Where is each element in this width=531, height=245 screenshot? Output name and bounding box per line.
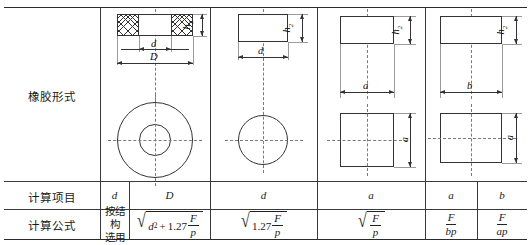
annulus-h-arrow-up (200, 14, 204, 19)
cylinder-plan-centerline-v (263, 107, 264, 173)
sqrt-radical-annulus: √ (137, 211, 146, 238)
formula-annulus-d: 按结构 选用 (100, 209, 129, 240)
rect-b-label: b (467, 80, 472, 91)
calc-item-rect-b: b (477, 181, 527, 209)
formula-rect-a: F bp (425, 209, 477, 240)
annulus-D-arrow-left (117, 61, 122, 65)
formula-annulus-D-den: p (189, 226, 199, 239)
formula-rect-b-den: ap (495, 225, 510, 238)
sqrt-radical-cylinder: √ (241, 211, 250, 238)
annulus-d-arrow-right (166, 47, 171, 51)
square-h-ext-top (394, 16, 416, 17)
formula-rect-b: F ap (477, 209, 527, 240)
square-elevation-box (340, 16, 394, 44)
square-a-top-arrow-left (340, 90, 345, 94)
annulus-D-ext-right (193, 36, 194, 65)
formula-annulus-D-coef: 1.27 (168, 220, 187, 232)
rect-h-label: h2 (495, 26, 509, 35)
formula-cylinder-den: p (273, 226, 283, 239)
cylinder-h-arrow-down (300, 37, 304, 42)
diagram-cylinder: h2 d (211, 8, 317, 181)
cylinder-plan-centerline-h (225, 140, 303, 141)
cylinder-h-ext-bot (288, 42, 308, 43)
calc-item-annulus-D: D (129, 181, 210, 209)
calc-item-rect-a: a (425, 181, 477, 209)
row-label-calc-item: 计算项目 (4, 189, 100, 205)
annulus-d-arrow-left (139, 47, 144, 51)
diagram-square: h2 a a (318, 8, 425, 181)
rect-plan-centerline-v (471, 104, 472, 176)
formula-cylinder-coef: 1.27 (252, 220, 271, 232)
rect-side-dimline (516, 113, 517, 163)
annulus-d-dimline (121, 49, 189, 50)
cylinder-d-arrow-right (283, 55, 288, 59)
engineering-table: 橡胶形式 计算项目 计算公式 h2 d D (4, 7, 527, 240)
cylinder-h-ext-top (288, 14, 308, 15)
rect-h-ext-bot (502, 44, 522, 45)
formula-annulus-d-line1: 按结构 (100, 205, 129, 231)
square-a-ext-right (394, 44, 395, 98)
rect-b-arrow-right (497, 90, 502, 94)
formula-cylinder-num: F (272, 213, 283, 226)
formula-square-a: √ F p (317, 209, 425, 240)
rect-h-arrow-down (514, 39, 518, 44)
formula-annulus-D-plus: + (158, 220, 168, 232)
sqrt-radical-square: √ (358, 211, 367, 238)
calc-item-square-a: a (317, 181, 425, 209)
rect-h-arrow-up (514, 16, 518, 21)
square-h-arrow-down (408, 39, 412, 44)
rect-side-label: a (504, 135, 515, 140)
square-side-ext-top (394, 113, 416, 114)
square-side-dimline (410, 113, 411, 167)
rect-b-dimline (440, 92, 502, 93)
annulus-D-label: D (150, 51, 158, 62)
formula-annulus-D-num: F (188, 213, 199, 226)
square-side-arrow-up (408, 113, 412, 118)
square-side-arrow-down (408, 162, 412, 167)
diagram-rectangle: h2 b a (426, 8, 527, 181)
formula-annulus-d-line2: 选用 (100, 231, 129, 244)
rect-plan-centerline-h (428, 138, 516, 139)
rect-b-ext-right (502, 44, 503, 98)
row-label-calc-formula: 计算公式 (4, 217, 100, 233)
rect-side-arrow-up (514, 113, 518, 118)
formula-rect-a-num: F (446, 212, 457, 225)
table-sheet: 橡胶形式 计算项目 计算公式 h2 d D (0, 0, 531, 245)
annulus-h-ext-bot (193, 36, 207, 37)
calc-item-cylinder-d: d (210, 181, 317, 209)
annulus-D-arrow-right (188, 61, 193, 65)
rect-side-ext-bot (502, 163, 522, 164)
formula-rect-a-den: bp (444, 225, 459, 238)
formula-rect-b-num: F (497, 212, 508, 225)
annulus-section-core (139, 14, 171, 36)
cylinder-d-arrow-left (238, 55, 243, 59)
cylinder-h-arrow-up (300, 14, 304, 19)
annulus-d-label: d (151, 38, 156, 49)
square-a-top-dimline (340, 92, 394, 93)
square-h-label: h2 (390, 26, 404, 35)
formula-square-den: p (371, 226, 381, 239)
rect-side-ext-top (502, 113, 522, 114)
cylinder-h-label: h2 (281, 24, 295, 33)
square-a-top-label: a (363, 80, 368, 91)
formula-cylinder-d: √ 1.27 F p (210, 209, 317, 240)
annulus-h-arrow-down (200, 31, 204, 36)
rect-side-arrow-down (514, 158, 518, 163)
annulus-plan-centerline-v (155, 94, 156, 186)
square-side-label: a (399, 137, 410, 142)
square-a-top-arrow-right (389, 90, 394, 94)
formula-square-num: F (370, 213, 381, 226)
rect-b-arrow-left (440, 90, 445, 94)
rect-h-ext-top (502, 16, 522, 17)
annulus-D-dimline (117, 63, 193, 64)
annulus-h-label: h2 (181, 21, 195, 30)
cylinder-d-ext-right (288, 42, 289, 60)
annulus-section-left (117, 14, 139, 36)
diagram-annulus: h2 d D (101, 8, 210, 181)
rect-elevation-box (440, 16, 502, 44)
square-plan-centerline-v (367, 104, 368, 176)
square-h-arrow-up (408, 16, 412, 21)
formula-annulus-D: √ d2 + 1.27 F p (129, 209, 210, 240)
cylinder-d-dimline (238, 57, 288, 58)
cylinder-d-label: d (258, 45, 263, 56)
